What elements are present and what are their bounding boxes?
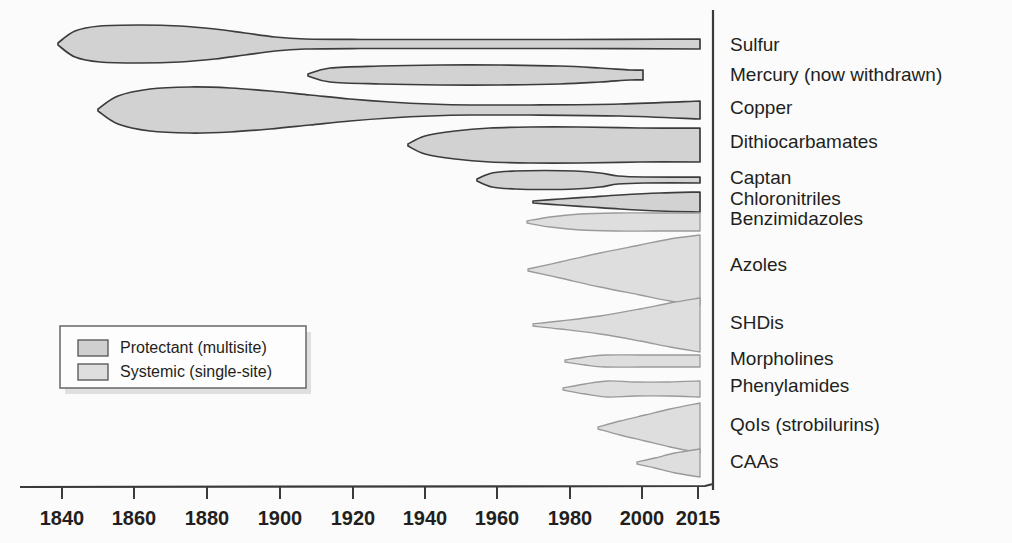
legend: Protectant (multisite)Systemic (single-s… [60,326,311,394]
band-group-benzimidazoles [527,213,700,231]
legend-swatch-systemic [78,364,108,380]
category-label-phenylamides: Phenylamides [730,375,849,396]
stream-band [527,213,700,231]
stream-band [477,171,700,190]
legend-label-systemic: Systemic (single-site) [120,363,272,380]
category-label-benzimidazoles: Benzimidazoles [730,208,863,229]
axis-tick-label-2000: 2000 [620,507,665,529]
category-label-shdis: SHDis [730,312,784,333]
category-label-azoles: Azoles [730,254,787,275]
stream-band [408,127,700,163]
stream-band [58,25,700,63]
band-group-sulfur [58,25,700,63]
category-label-morpholines: Morpholines [730,348,834,369]
category-label-sulfur: Sulfur [730,34,780,55]
category-label-captan: Captan [730,167,791,188]
axis-tick-label-1900: 1900 [258,507,303,529]
band-group-morpholines [565,355,700,367]
stream-band [637,449,700,477]
legend-label-protectant: Protectant (multisite) [120,339,267,356]
band-group-mercury-now-withdrawn [308,65,643,85]
stream-band [565,355,700,367]
stream-band [528,235,700,305]
band-group-copper [98,87,700,133]
axis-tick-label-2015: 2015 [676,507,721,529]
band-group-chloronitriles [533,192,700,212]
band-group-shdis [533,298,700,352]
stream-band [563,381,700,397]
band-group-dithiocarbamates [408,127,700,163]
axis-line [20,484,713,487]
axis-tick-label-1960: 1960 [475,507,520,529]
category-label-copper: Copper [730,97,793,118]
category-label-mercury-now-withdrawn: Mercury (now withdrawn) [730,64,942,85]
chart-canvas: SulfurMercury (now withdrawn)CopperDithi… [0,0,1012,543]
axis-tick-label-1880: 1880 [185,507,230,529]
stream-band [533,192,700,212]
axis-tick-label-1940: 1940 [403,507,448,529]
axis-tick-label-1980: 1980 [548,507,593,529]
axis-tick-label-1860: 1860 [112,507,157,529]
legend-swatch-protectant [78,340,108,356]
category-label-qois-strobilurins: QoIs (strobilurins) [730,414,880,435]
x-axis: 1840186018801900192019401960198020002015 [20,484,720,529]
category-label-caas: CAAs [730,451,779,472]
band-group-qois-strobilurins [598,403,700,453]
stream-bands-layer [58,25,700,477]
band-group-caas [637,449,700,477]
category-labels-layer: SulfurMercury (now withdrawn)CopperDithi… [730,34,942,472]
category-label-dithiocarbamates: Dithiocarbamates [730,131,878,152]
axis-tick-label-1920: 1920 [331,507,376,529]
band-group-azoles [528,235,700,305]
stream-band [308,65,643,85]
axis-tick-label-1840: 1840 [40,507,85,529]
band-group-captan [477,171,700,190]
fungicide-timeline-figure: SulfurMercury (now withdrawn)CopperDithi… [0,0,1012,543]
category-label-chloronitriles: Chloronitriles [730,188,841,209]
stream-band [598,403,700,453]
band-group-phenylamides [563,381,700,397]
stream-band [533,298,700,352]
stream-band [98,87,700,133]
